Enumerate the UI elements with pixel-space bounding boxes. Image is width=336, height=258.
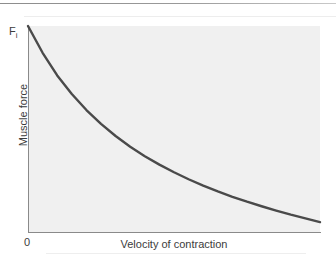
y-axis-max-subscript: i (16, 31, 18, 40)
force-velocity-figure: Fi Muscle force 0 Velocity of contractio… (0, 0, 336, 258)
page-top-secondary-rule (24, 16, 336, 17)
page-bottom-rule (46, 253, 306, 254)
y-axis-max-label: Fi (9, 25, 18, 40)
y-axis-title: Muscle force (17, 60, 29, 170)
y-axis-max-symbol: F (9, 25, 16, 37)
page-top-rule (0, 3, 336, 4)
x-axis-title: Velocity of contraction (28, 238, 320, 250)
x-axis-line (28, 232, 321, 233)
plot-area (28, 26, 320, 232)
